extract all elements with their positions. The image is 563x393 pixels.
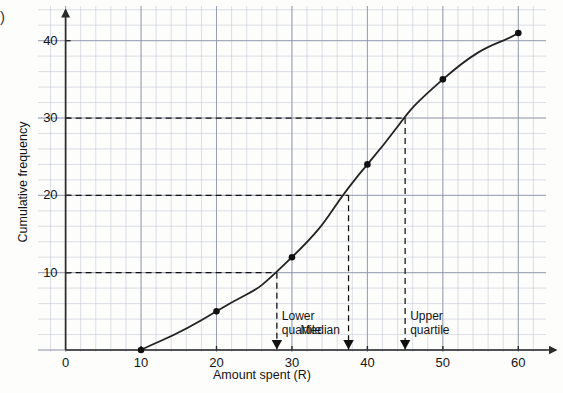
y-tick-label: 40 xyxy=(32,33,58,48)
data-curve xyxy=(141,33,518,350)
annotation-line-1: Upper xyxy=(410,310,449,324)
y-tick-label: 10 xyxy=(32,265,58,280)
x-axis-title: Amount spent (R) xyxy=(213,368,311,382)
x-tick-label: 10 xyxy=(124,355,158,370)
guide-lines xyxy=(66,118,406,350)
x-tick-label: 60 xyxy=(501,355,535,370)
annotation-median: Median xyxy=(301,324,340,338)
chart-canvas: ) 10203040 0102030405060 LowerquartileMe… xyxy=(0,0,563,393)
annotation-line-2: quartile xyxy=(410,324,449,338)
annotation-line-1: Lower xyxy=(282,310,321,324)
y-tick-label: 20 xyxy=(32,187,58,202)
annotation-upper-quartile: Upperquartile xyxy=(410,310,449,337)
annotation-line-1: Median xyxy=(301,324,340,338)
y-axis-title: Cumulative frequency xyxy=(16,107,30,257)
x-tick-label: 40 xyxy=(350,355,384,370)
data-markers xyxy=(138,30,522,354)
x-tick-label: 50 xyxy=(426,355,460,370)
y-tick-label: 30 xyxy=(32,110,58,125)
x-tick-label: 0 xyxy=(49,355,83,370)
